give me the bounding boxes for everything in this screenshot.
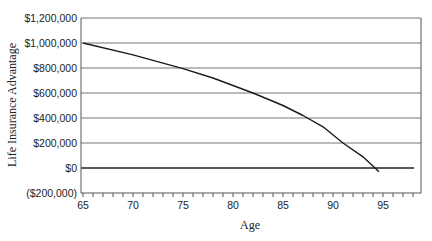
y-tick-label: $600,000 <box>33 87 77 99</box>
line-chart: $1,200,000$1,000,000$800,000$600,000$400… <box>0 0 432 241</box>
x-tick-label: 95 <box>377 199 389 211</box>
x-axis: 65707580859095 <box>77 18 421 211</box>
x-tick-label: 90 <box>327 199 339 211</box>
x-tick-label: 70 <box>127 199 139 211</box>
chart-root: $1,200,000$1,000,000$800,000$600,000$400… <box>0 0 432 241</box>
y-axis-tick-labels: $1,200,000$1,000,000$800,000$600,000$400… <box>24 12 77 199</box>
y-tick-label: $200,000 <box>33 137 77 149</box>
x-axis-title: Age <box>240 218 260 232</box>
series-line <box>83 43 379 172</box>
x-tick-label: 75 <box>177 199 189 211</box>
y-tick-label: $0 <box>65 162 77 174</box>
y-axis-title: Life Insurance Advantage <box>5 43 19 167</box>
data-series <box>83 43 379 172</box>
x-tick-label: 65 <box>77 199 89 211</box>
x-tick-label: 85 <box>277 199 289 211</box>
y-tick-label: ($200,000) <box>26 187 77 199</box>
y-tick-label: $1,200,000 <box>24 12 77 24</box>
x-tick-label: 80 <box>227 199 239 211</box>
y-tick-label: $800,000 <box>33 62 77 74</box>
gridlines <box>81 18 421 168</box>
y-tick-label: $400,000 <box>33 112 77 124</box>
y-tick-label: $1,000,000 <box>24 37 77 49</box>
